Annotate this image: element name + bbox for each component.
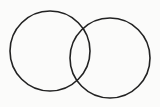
right-circle: [70, 18, 150, 98]
left-circle: [10, 11, 90, 91]
venn-diagram: [0, 0, 160, 107]
